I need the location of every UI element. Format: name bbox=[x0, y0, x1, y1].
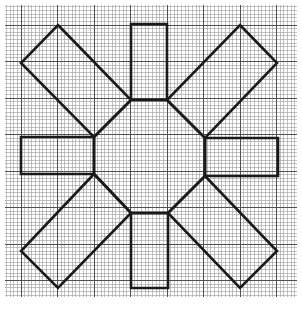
figure-canvas bbox=[0, 0, 302, 319]
grid-major-lines bbox=[5, 5, 297, 297]
shape-group bbox=[21, 24, 278, 288]
grid-minor-lines bbox=[5, 5, 297, 297]
rect-right bbox=[205, 138, 278, 176]
graph-paper-figure bbox=[0, 0, 302, 319]
